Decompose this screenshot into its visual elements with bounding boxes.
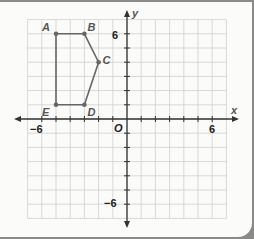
coordinate-plane: ABCDE x y O −6 6 6 −6 bbox=[0, 0, 254, 239]
vertex-label-d: D bbox=[87, 106, 95, 118]
vertex-label-b: B bbox=[87, 21, 95, 33]
vertex-a bbox=[54, 32, 59, 37]
vertex-d bbox=[82, 103, 87, 108]
pentagon-abcde: ABCDE bbox=[41, 21, 112, 118]
x-tick-label-6: 6 bbox=[209, 123, 215, 135]
x-axis-label: x bbox=[230, 104, 238, 116]
vertex-label-e: E bbox=[42, 106, 50, 118]
vertex-label-c: C bbox=[103, 54, 112, 66]
vertex-b bbox=[82, 32, 87, 37]
y-axis-label: y bbox=[131, 7, 139, 19]
y-tick-label-neg6: −6 bbox=[104, 197, 117, 209]
axes bbox=[14, 10, 239, 228]
y-tick-label-6: 6 bbox=[112, 29, 118, 41]
vertex-label-a: A bbox=[41, 21, 50, 33]
origin-label: O bbox=[114, 122, 123, 134]
vertex-e bbox=[54, 103, 59, 108]
vertex-c bbox=[96, 60, 101, 65]
x-tick-label-neg6: −6 bbox=[30, 123, 43, 135]
